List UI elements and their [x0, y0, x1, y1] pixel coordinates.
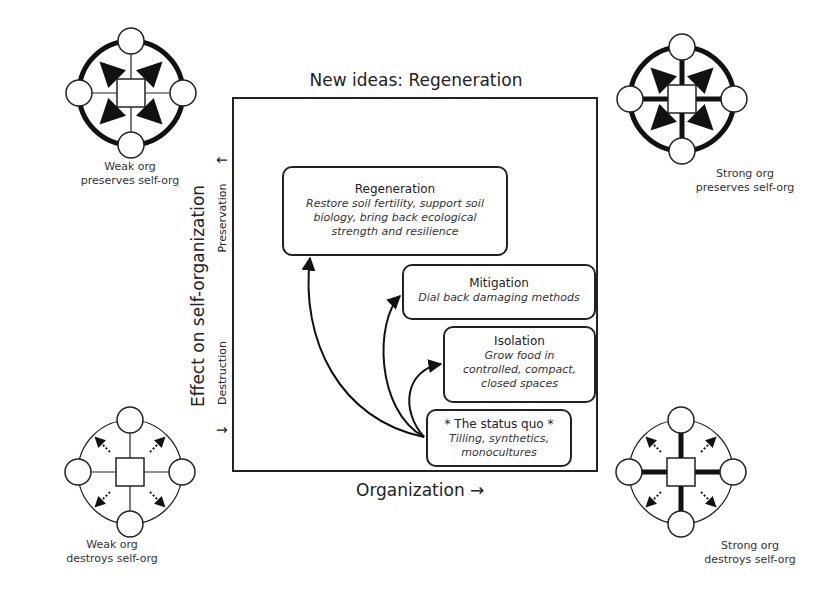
caption-bottom-right-line-2: destroys self-org	[690, 553, 810, 567]
caption-bottom-left-line-2: destroys self-org	[50, 552, 174, 566]
caption-top-left-line-1: Weak org	[68, 160, 192, 174]
caption-bottom-left: Weak org destroys self-org	[50, 538, 174, 566]
isolation-desc-3: closed spaces	[445, 377, 594, 391]
strong-org-destroys-icon	[616, 407, 746, 537]
isolation-desc-2: controlled, compact,	[445, 363, 594, 377]
status-quo-heading: * The status quo *	[428, 417, 570, 432]
isolation-heading: Isolation	[445, 334, 594, 349]
caption-top-right: Strong org preserves self-org	[680, 167, 810, 195]
x-axis-label: Organization →	[356, 480, 484, 500]
regeneration-desc-3: strength and resilience	[284, 225, 506, 239]
caption-top-right-line-1: Strong org	[680, 167, 810, 181]
strong-org-preserves-icon	[617, 34, 747, 164]
isolation-desc-1: Grow food in	[445, 349, 594, 363]
diagram-title: New ideas: Regeneration	[232, 70, 600, 90]
mitigation-box: Mitigation Dial back damaging methods	[402, 264, 596, 320]
mitigation-heading: Mitigation	[404, 276, 594, 291]
caption-top-left-line-2: preserves self-org	[68, 174, 192, 188]
arrow-up-icon: ↑	[214, 154, 230, 166]
status-quo-desc-2: monocultures	[428, 446, 570, 460]
x-axis-label-text: Organization	[356, 480, 465, 500]
status-quo-desc-1: Tilling, synthetics,	[428, 432, 570, 446]
y-axis-label: Effect on self-organization	[188, 185, 208, 407]
caption-bottom-right-line-1: Strong org	[690, 539, 810, 553]
y-axis-upper-label: Preservation	[216, 184, 229, 253]
y-axis	[150, 96, 220, 476]
mitigation-desc-1: Dial back damaging methods	[404, 291, 594, 305]
isolation-box: Isolation Grow food in controlled, compa…	[443, 326, 596, 403]
caption-bottom-left-line-1: Weak org	[50, 538, 174, 552]
arrow-down-icon: ↓	[214, 424, 230, 436]
caption-bottom-right: Strong org destroys self-org	[690, 539, 810, 567]
regeneration-desc-1: Restore soil fertility, support soil	[284, 197, 506, 211]
y-axis-lower-label: Destruction	[216, 341, 229, 405]
regeneration-box: Regeneration Restore soil fertility, sup…	[282, 166, 508, 256]
regeneration-desc-2: biology, bring back ecological	[284, 211, 506, 225]
caption-top-right-line-2: preserves self-org	[680, 181, 810, 195]
status-quo-box: * The status quo * Tilling, synthetics, …	[426, 409, 572, 467]
caption-top-left: Weak org preserves self-org	[68, 160, 192, 188]
regeneration-heading: Regeneration	[284, 182, 506, 197]
arrow-right-icon: →	[470, 480, 484, 500]
